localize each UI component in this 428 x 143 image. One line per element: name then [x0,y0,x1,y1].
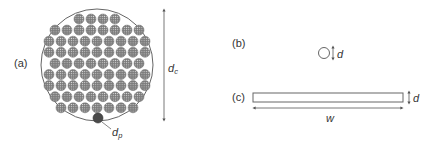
strand [116,81,126,91]
strand [92,103,102,113]
strand [50,25,60,35]
strand [110,92,120,102]
strand [68,70,78,80]
strand [50,58,60,68]
strand [44,70,54,80]
strand [56,70,66,80]
strand [110,58,120,68]
flat-conductor [253,93,403,102]
strand [104,81,114,91]
d-label-b: d [337,48,344,60]
strand [74,25,84,35]
panel-a: (a) dp dc [14,9,178,140]
strand [92,47,102,57]
strand [62,25,72,35]
strand [122,58,132,68]
panel-c: (c) d w [232,91,420,124]
strand [128,81,138,91]
strand [104,36,114,46]
panel-c-label: (c) [232,91,245,103]
strand [80,70,90,80]
strand [80,81,90,91]
strand [140,81,150,91]
strand [50,92,60,102]
strand [98,14,108,24]
strand [56,103,66,113]
strand [86,14,96,24]
strand [68,81,78,91]
strand [104,70,114,80]
strand [62,58,72,68]
strand [140,47,150,57]
strand [44,47,54,57]
strand [122,92,132,102]
strand [74,14,84,24]
strand [110,25,120,35]
strand [56,47,66,57]
strand [86,92,96,102]
dp-leader-line [102,122,111,129]
strand [68,36,78,46]
strand [116,103,126,113]
strand [86,25,96,35]
strand [98,25,108,35]
d-label-c: d [413,92,420,104]
strand [98,92,108,102]
strand [44,81,54,91]
strand [140,36,150,46]
strand [80,47,90,57]
strand [62,92,72,102]
dp-label: dp [112,126,122,140]
strand [128,70,138,80]
strand [80,36,90,46]
strand-bundle [44,14,150,113]
dc-label: dc [168,62,178,76]
strand [128,47,138,57]
w-label: w [326,112,335,124]
round-wire [319,48,330,59]
strand [80,103,90,113]
strand [140,70,150,80]
strand [86,58,96,68]
panel-b: (b) d [232,37,344,60]
strand [134,25,144,35]
strand [44,36,54,46]
strand [68,47,78,57]
strand [56,81,66,91]
strand [134,58,144,68]
panel-a-label: (a) [14,57,27,69]
strand [98,58,108,68]
strand [122,25,132,35]
strand [110,14,120,24]
strand [92,36,102,46]
strand [128,103,138,113]
strand [116,36,126,46]
strand [92,81,102,91]
strand [128,36,138,46]
strand [74,58,84,68]
strand [116,47,126,57]
strand [56,36,66,46]
strand [74,92,84,102]
strand [92,70,102,80]
strand [68,103,78,113]
strand [116,70,126,80]
strand [104,47,114,57]
figure-canvas: (a) dp dc (b) d (c) d w [0,0,428,143]
panel-b-label: (b) [232,37,245,49]
strand [104,103,114,113]
strand [134,92,144,102]
highlighted-strand [93,113,103,123]
